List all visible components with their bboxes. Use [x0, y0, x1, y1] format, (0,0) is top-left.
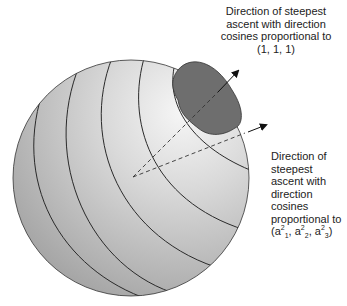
label-direction-a-squared: Direction of steepest ascent with direct…: [271, 150, 347, 238]
label-line: Direction of steepest: [205, 5, 347, 18]
formula-sup: 2: [321, 224, 325, 231]
formula-sup: 2: [281, 224, 285, 231]
label-line: proportional to: [271, 213, 347, 226]
label-direction-111: Direction of steepest ascent with direct…: [205, 5, 347, 55]
label-line: steepest: [271, 163, 347, 176]
label-line: ascent with: [271, 175, 347, 188]
label-line: ascent with direction: [205, 18, 347, 31]
label-line: cosines proportional to: [205, 30, 347, 43]
formula-part: , a: [309, 225, 321, 237]
label-line: Direction of: [271, 150, 347, 163]
formula-sup: 2: [301, 224, 305, 231]
label-line: (1, 1, 1): [205, 43, 347, 56]
arrow-direction-a-squared: [248, 125, 266, 132]
formula-part: ): [329, 225, 333, 237]
formula-part: (a: [271, 225, 281, 237]
label-line: cosines: [271, 200, 347, 213]
formula-part: , a: [289, 225, 301, 237]
formula-a-squared: (a21, a22, a23): [271, 225, 347, 238]
label-line: direction: [271, 188, 347, 201]
